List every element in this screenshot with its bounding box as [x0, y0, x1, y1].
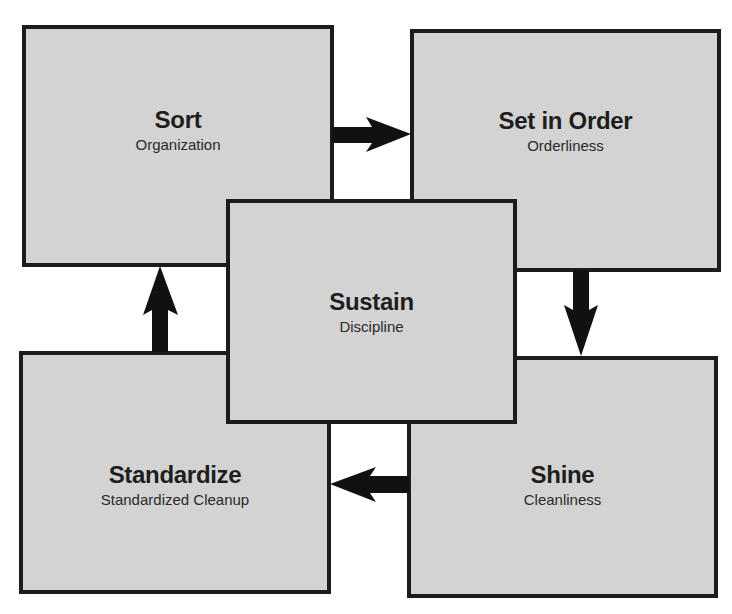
arrow-up-icon	[143, 266, 178, 352]
step-title: Shine	[531, 460, 595, 490]
arrow-right-icon	[332, 117, 411, 152]
step-subtitle: Standardized Cleanup	[101, 490, 249, 510]
step-title: Standardize	[109, 460, 242, 490]
arrow-down-icon	[564, 270, 598, 356]
step-subtitle: Orderliness	[527, 136, 604, 156]
step-title: Set in Order	[499, 106, 633, 136]
arrow-left-icon	[330, 467, 409, 502]
step-subtitle: Organization	[135, 135, 220, 155]
step-sustain-box: Sustain Discipline	[226, 199, 517, 424]
step-subtitle: Discipline	[339, 317, 403, 337]
step-title: Sort	[155, 105, 202, 135]
step-subtitle: Cleanliness	[524, 490, 602, 510]
step-title: Sustain	[329, 287, 414, 317]
